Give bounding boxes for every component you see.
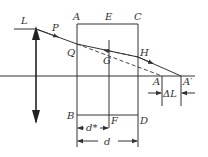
label-d-star: d* bbox=[86, 122, 97, 133]
label-lens: L bbox=[20, 15, 28, 26]
label-G: G bbox=[103, 55, 111, 66]
label-P: P bbox=[51, 22, 59, 33]
label-F: F bbox=[110, 115, 119, 126]
dashed-ray-QA bbox=[77, 44, 162, 76]
label-B: B bbox=[66, 110, 74, 121]
lens-icon bbox=[32, 26, 40, 124]
label-A-top: A bbox=[72, 11, 80, 22]
label-C: C bbox=[134, 11, 142, 22]
optical-plate-diagram: L P Q A E C G H A A′ B F D d* d ΔL bbox=[0, 0, 208, 157]
label-H: H bbox=[139, 47, 149, 58]
label-A-axis: A bbox=[152, 76, 160, 87]
label-d: d bbox=[104, 136, 110, 147]
label-Q: Q bbox=[67, 47, 75, 58]
label-delta-L: ΔL bbox=[162, 88, 177, 99]
label-E: E bbox=[104, 11, 113, 22]
label-D: D bbox=[139, 115, 148, 126]
label-A-prime: A′ bbox=[182, 76, 193, 87]
